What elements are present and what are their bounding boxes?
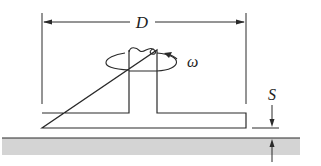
diameter-label: D [135, 13, 149, 32]
shaft-break [129, 48, 156, 54]
disk-and-shaft [42, 50, 246, 128]
arrow-left-icon [43, 20, 52, 25]
ground-surface [2, 138, 300, 155]
omega-label: ω [187, 53, 198, 70]
disk-diagram: D ω S [0, 0, 321, 166]
arrow-down-icon [270, 119, 275, 127]
gap-label: S [268, 86, 276, 103]
rotation-indicator: ω [106, 52, 198, 71]
diameter-dimension: D [43, 13, 245, 32]
arrow-right-icon [236, 20, 245, 25]
